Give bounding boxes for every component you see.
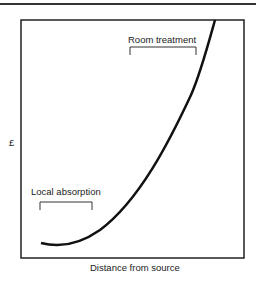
- cost-curve: [41, 20, 215, 245]
- x-axis-label: Distance from source: [90, 262, 180, 273]
- plot-frame: [21, 20, 244, 258]
- local-absorption-label: Local absorption: [31, 186, 101, 197]
- room-treatment-bracket: [130, 47, 196, 55]
- local-absorption-bracket: [40, 202, 92, 210]
- room-treatment-label: Room treatment: [128, 34, 196, 45]
- y-axis-label: £: [9, 137, 14, 148]
